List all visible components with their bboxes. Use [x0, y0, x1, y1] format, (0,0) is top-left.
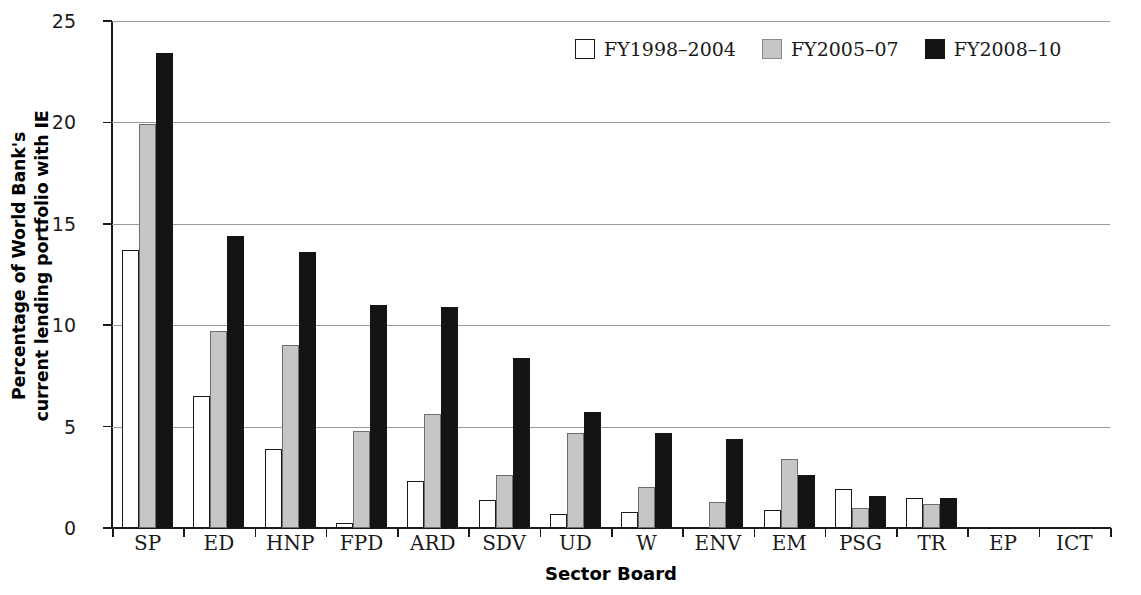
x-category-label: FPD — [326, 531, 397, 555]
bar — [567, 433, 584, 528]
y-tick-label: 15 — [36, 213, 76, 235]
bar — [923, 504, 940, 528]
y-axis-title-line1: Percentage of World Bank's — [9, 132, 29, 400]
bar — [621, 512, 638, 528]
y-tick-mark — [103, 426, 112, 428]
y-tick-mark — [103, 20, 112, 22]
plot-area: 0510152025 — [112, 21, 1110, 528]
legend-label: FY2008–10 — [954, 38, 1062, 60]
bar-groups — [112, 21, 1110, 528]
bar — [353, 431, 370, 528]
bar — [407, 481, 424, 528]
y-tick-mark — [103, 527, 112, 529]
x-category-label: UD — [540, 531, 611, 555]
legend-item: FY1998–2004 — [575, 38, 736, 60]
bar — [655, 433, 672, 528]
bar-group — [540, 21, 611, 528]
y-tick-label: 25 — [36, 10, 76, 32]
bar — [424, 414, 441, 528]
x-category-label: ENV — [682, 531, 753, 555]
x-category-label: SDV — [468, 531, 539, 555]
bar — [210, 331, 227, 528]
bar — [584, 412, 601, 528]
x-category-label: ED — [183, 531, 254, 555]
bar — [513, 358, 530, 528]
bar-group — [397, 21, 468, 528]
bar-group — [1039, 21, 1110, 528]
x-category-label: EP — [967, 531, 1038, 555]
y-tick-label: 0 — [36, 517, 76, 539]
y-tick-mark — [103, 223, 112, 225]
bar-group — [611, 21, 682, 528]
y-tick-label: 5 — [36, 416, 76, 438]
bar-chart-figure: Percentage of World Bank's current lendi… — [0, 0, 1141, 595]
legend-swatch — [762, 39, 782, 59]
x-axis-title: Sector Board — [112, 563, 1110, 584]
x-category-label: SP — [112, 531, 183, 555]
bar — [638, 487, 655, 528]
legend-item: FY2005–07 — [762, 38, 899, 60]
y-axis-title: Percentage of World Bank's current lendi… — [0, 0, 62, 532]
bar-group — [326, 21, 397, 528]
bar-group — [682, 21, 753, 528]
bar — [265, 449, 282, 528]
bar-group — [112, 21, 183, 528]
legend-swatch — [925, 39, 945, 59]
bar-group — [967, 21, 1038, 528]
y-tick-mark — [103, 122, 112, 124]
legend-label: FY1998–2004 — [604, 38, 736, 60]
x-category-label: HNP — [255, 531, 326, 555]
y-axis-title-line2: current lending portfolio with IE — [31, 110, 54, 421]
bar-group — [468, 21, 539, 528]
bar-group — [896, 21, 967, 528]
bar — [122, 250, 139, 528]
bar — [496, 475, 513, 528]
bar — [156, 53, 173, 528]
bar-group — [754, 21, 825, 528]
bar — [798, 475, 815, 528]
x-category-label: ICT — [1039, 531, 1110, 555]
bar — [370, 305, 387, 528]
bar — [550, 514, 567, 528]
bar — [299, 252, 316, 528]
bar — [835, 489, 852, 528]
bar-group — [255, 21, 326, 528]
y-tick-mark — [103, 324, 112, 326]
chart-legend: FY1998–2004FY2005–07FY2008–10 — [575, 38, 1061, 60]
x-category-label: PSG — [825, 531, 896, 555]
legend-label: FY2005–07 — [791, 38, 899, 60]
bar — [869, 496, 886, 528]
x-tick-mark — [1110, 528, 1112, 537]
legend-swatch — [575, 39, 595, 59]
x-category-label: ARD — [397, 531, 468, 555]
bar — [193, 396, 210, 528]
bar — [764, 510, 781, 528]
x-category-label: TR — [896, 531, 967, 555]
bar — [139, 124, 156, 528]
x-category-label: EM — [754, 531, 825, 555]
bar — [940, 498, 957, 528]
bar-group — [183, 21, 254, 528]
y-tick-label: 20 — [36, 111, 76, 133]
bar — [906, 498, 923, 528]
bar — [852, 508, 869, 528]
y-tick-label: 10 — [36, 314, 76, 336]
x-axis-category-labels: SPEDHNPFPDARDSDVUDWENVEMPSGTREPICT — [112, 531, 1110, 555]
bar — [227, 236, 244, 528]
bar — [781, 459, 798, 528]
bar — [282, 345, 299, 528]
legend-item: FY2008–10 — [925, 38, 1062, 60]
bar — [726, 439, 743, 528]
bar-group — [825, 21, 896, 528]
bar — [479, 500, 496, 528]
bar — [709, 502, 726, 528]
bar — [441, 307, 458, 528]
x-category-label: W — [611, 531, 682, 555]
